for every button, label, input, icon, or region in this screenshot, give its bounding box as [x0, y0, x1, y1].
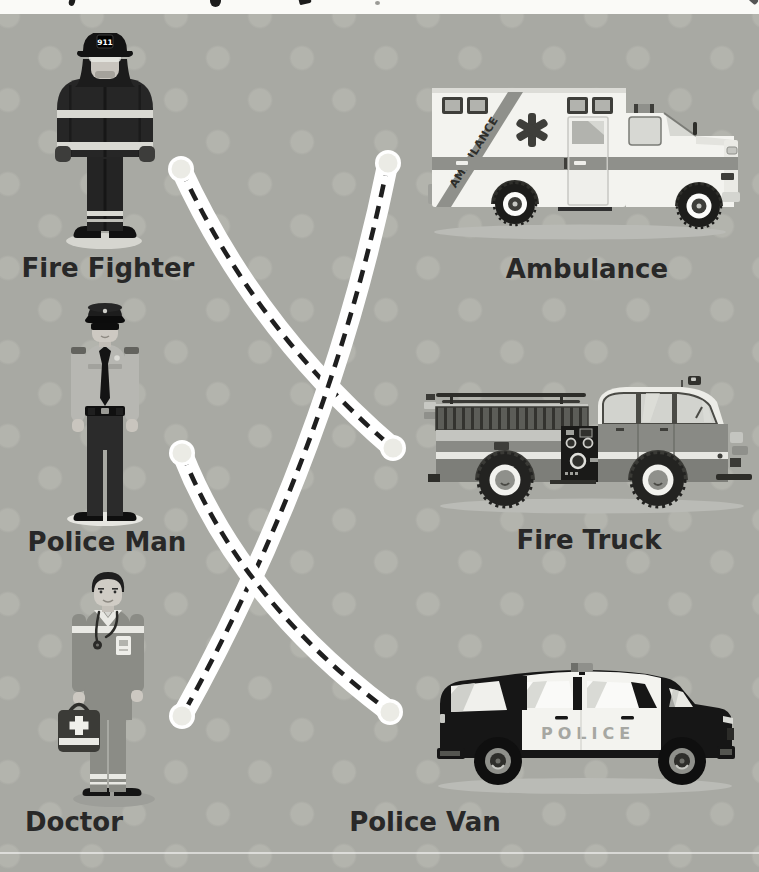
connection-ambulance-to-doctor[interactable] [169, 150, 401, 729]
worksheet-page: 911 Fire Fighter [0, 0, 759, 872]
connection-lines [0, 0, 759, 872]
page-fold-line [0, 852, 759, 854]
